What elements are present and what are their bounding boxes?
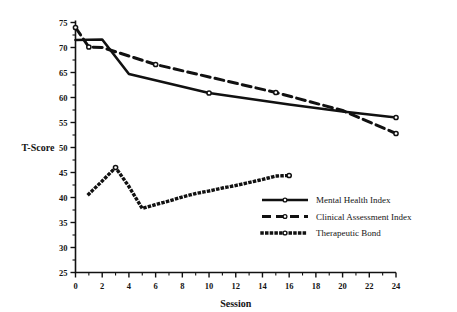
- x-tick-label: 8: [180, 281, 184, 291]
- legend-marker: [283, 231, 287, 235]
- y-tick-label: 45: [59, 168, 68, 178]
- x-tick-label: 22: [365, 281, 374, 291]
- x-tick-label: 4: [127, 281, 132, 291]
- y-tick-label: 35: [59, 218, 68, 228]
- legend-marker: [283, 215, 287, 219]
- y-tick-label: 60: [59, 93, 68, 103]
- legend-label: Therapeutic Bond: [316, 228, 381, 238]
- x-tick-label: 0: [73, 281, 77, 291]
- y-tick-label: 75: [59, 18, 68, 28]
- y-tick-label: 30: [59, 243, 68, 253]
- data-point-marker: [287, 173, 291, 177]
- data-point-marker: [113, 165, 117, 169]
- data-point-marker: [274, 90, 278, 94]
- line-chart: 024681012141618202224 253035404550556065…: [0, 0, 457, 312]
- x-tick-label: 16: [285, 281, 294, 291]
- y-tick-label: 25: [59, 268, 68, 278]
- y-tick-label: 40: [59, 193, 68, 203]
- legend-label: Clinical Assessment Index: [316, 212, 412, 222]
- x-tick-label: 20: [338, 281, 347, 291]
- x-tick-label: 6: [154, 281, 158, 291]
- x-tick-label: 10: [205, 281, 214, 291]
- x-tick-label: 12: [232, 281, 241, 291]
- x-tick-label: 2: [100, 281, 104, 291]
- chart-background: [0, 0, 457, 312]
- legend-label: Mental Health Index: [316, 195, 391, 205]
- x-axis-label: Session: [220, 298, 252, 309]
- legend-marker: [283, 198, 287, 202]
- y-tick-label: 70: [59, 43, 68, 53]
- y-tick-label: 50: [59, 143, 68, 153]
- data-point-marker: [394, 115, 398, 119]
- y-tick-label: 65: [59, 68, 68, 78]
- data-point-marker: [73, 25, 77, 29]
- x-tick-label: 14: [258, 281, 267, 291]
- data-point-marker: [207, 91, 211, 95]
- y-tick-label: 55: [59, 118, 68, 128]
- data-point-marker: [154, 62, 158, 66]
- data-point-marker: [87, 45, 91, 49]
- data-point-marker: [394, 131, 398, 135]
- y-axis-label: T-Score: [22, 142, 55, 153]
- x-tick-label: 18: [312, 281, 321, 291]
- x-tick-label: 24: [392, 281, 401, 291]
